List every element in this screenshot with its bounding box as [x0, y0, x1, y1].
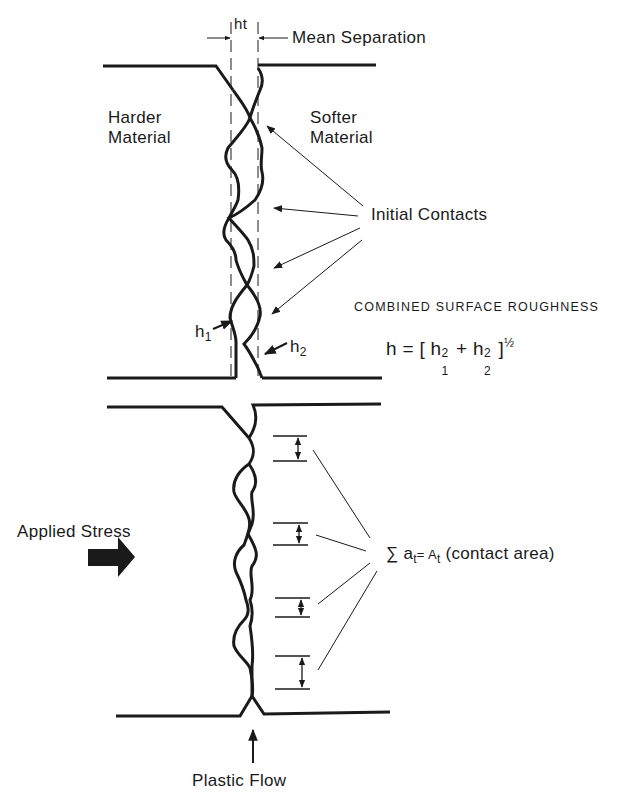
contact-bracket-2 — [273, 523, 308, 545]
initial-contacts-label: Initial Contacts — [371, 205, 487, 225]
contact-arrow-4 — [272, 240, 362, 314]
h2-label: h2 — [290, 337, 307, 362]
h1-label: h1 — [195, 322, 212, 347]
sum-leader-3 — [318, 563, 370, 604]
harder-top-surface-compressed — [107, 407, 249, 438]
harder-material-label-line2: Material — [108, 128, 171, 148]
ht-label: ht — [234, 14, 247, 34]
contact-area-sum-label: ∑ at= At (contact area) — [386, 544, 555, 569]
sum-leader-2 — [316, 535, 366, 551]
harder-material-label-line1: Harder — [108, 108, 162, 128]
applied-stress-label: Applied Stress — [17, 522, 131, 542]
softer-bottom-surface-compressed — [252, 696, 390, 714]
h1-pointer — [213, 321, 232, 329]
combined-surface-roughness-title: COMBINED SURFACE ROUGHNESS — [354, 297, 599, 317]
contact-bracket-4 — [275, 656, 310, 689]
mean-separation-label: Mean Separation — [292, 28, 426, 48]
h2-pointer — [265, 343, 287, 354]
compressed-interface-profile-right — [248, 464, 256, 696]
bottom-panel — [107, 404, 390, 763]
harder-top-surface — [103, 66, 233, 90]
softer-material-label-line2: Material — [310, 128, 373, 148]
top-panel — [103, 22, 382, 380]
softer-top-surface-compressed — [249, 404, 381, 438]
sum-leader-1 — [313, 450, 370, 538]
contact-bracket-3 — [275, 598, 310, 617]
contact-arrow-2 — [274, 208, 358, 216]
contact-arrow-3 — [274, 228, 360, 268]
softer-material-label-line1: Softer — [310, 108, 357, 128]
harder-profile — [224, 90, 250, 378]
contact-bracket-1 — [273, 436, 307, 461]
applied-stress-arrow-icon — [88, 537, 135, 577]
sum-leader-4 — [318, 571, 377, 670]
roughness-formula: h = [ h21 + h22 ]½ — [386, 333, 514, 359]
harder-bottom-surface-compressed — [116, 696, 252, 716]
plastic-flow-label: Plastic Flow — [192, 771, 286, 791]
